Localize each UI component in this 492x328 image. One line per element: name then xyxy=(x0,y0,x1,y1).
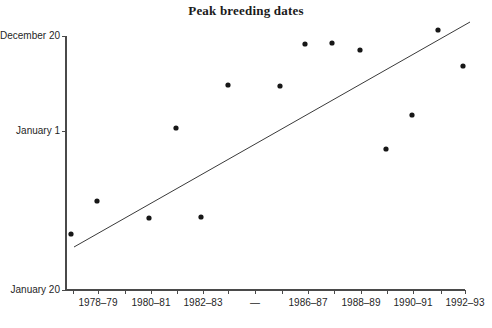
x-tick-marks xyxy=(73,290,465,294)
data-point xyxy=(302,41,307,46)
data-point xyxy=(329,40,334,45)
data-point xyxy=(225,82,230,87)
trend-line xyxy=(74,22,470,247)
data-point xyxy=(383,146,388,151)
data-point xyxy=(94,198,99,203)
data-point xyxy=(68,231,73,236)
data-point xyxy=(460,63,465,68)
data-point xyxy=(198,214,203,219)
chart-figure: Peak breeding dates December 20January 1… xyxy=(0,0,492,328)
data-point xyxy=(409,112,414,117)
y-tick-label: January 20 xyxy=(11,285,60,295)
plot-area xyxy=(0,0,492,328)
data-point xyxy=(173,125,178,130)
y-tick-label: January 1 xyxy=(16,126,60,136)
y-tick-marks xyxy=(62,36,66,290)
x-tick-label: 1992–93 xyxy=(425,298,492,308)
data-point xyxy=(277,83,282,88)
data-point xyxy=(435,27,440,32)
axes-group xyxy=(66,36,465,290)
data-point xyxy=(357,47,362,52)
data-point xyxy=(146,215,151,220)
y-tick-label: December 20 xyxy=(0,31,60,41)
